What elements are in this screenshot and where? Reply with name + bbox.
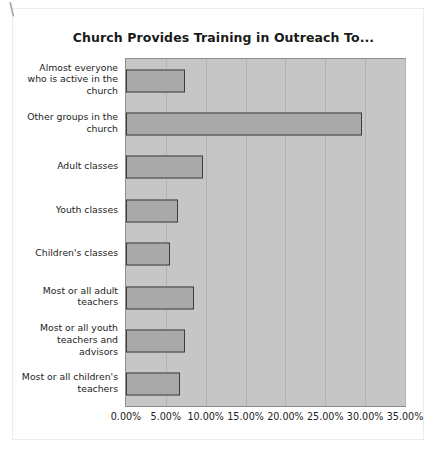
x-tick-label: 5.00% [151, 411, 181, 422]
category-label-line: church [18, 123, 118, 135]
bar[interactable] [126, 329, 185, 352]
bar-row [126, 59, 405, 102]
category-label: Most or all youthteachers andadvisors [18, 322, 118, 357]
x-tick-label: 0.00% [111, 411, 141, 422]
category-label: Most or all children'steachers [18, 372, 118, 396]
category-label-line: church [18, 86, 118, 98]
bar-row [126, 276, 405, 319]
category-axis-labels: Almost everyonewho is active in thechurc… [18, 58, 118, 407]
bar-row [126, 233, 405, 276]
category-label: Children's classes [18, 247, 118, 259]
category-label-line: Most or all adult [18, 285, 118, 297]
category-label: Almost everyonewho is active in thechurc… [18, 62, 118, 97]
category-label-line: Youth classes [18, 204, 118, 216]
corner-scan-mark: \ [8, 0, 24, 20]
x-tick-label: 15.00% [227, 411, 264, 422]
plot-area [125, 58, 406, 407]
bar[interactable] [126, 199, 178, 222]
category-label-line: advisors [18, 346, 118, 358]
bar[interactable] [126, 113, 362, 136]
category-label-line: teachers and [18, 334, 118, 346]
category-label: Adult classes [18, 161, 118, 173]
bar[interactable] [126, 286, 194, 309]
category-label-line: Children's classes [18, 247, 118, 259]
category-label-line: Almost everyone [18, 62, 118, 74]
category-label-line: Most or all children's [18, 372, 118, 384]
bar[interactable] [126, 243, 170, 266]
bar-row [126, 146, 405, 189]
category-label: Most or all adultteachers [18, 285, 118, 309]
x-tick-label: 20.00% [267, 411, 304, 422]
bar[interactable] [126, 373, 180, 396]
x-tick-label: 35.00% [387, 411, 424, 422]
category-label-line: Other groups in the [18, 111, 118, 123]
bar-row [126, 189, 405, 232]
category-label-line: who is active in the [18, 74, 118, 86]
chart-title: Church Provides Training in Outreach To.… [0, 30, 447, 45]
category-label-line: teachers [18, 297, 118, 309]
bar[interactable] [126, 69, 185, 92]
category-label-line: Adult classes [18, 161, 118, 173]
category-label-line: teachers [18, 383, 118, 395]
category-label-line: Most or all youth [18, 322, 118, 334]
x-tick-label: 30.00% [347, 411, 384, 422]
bar-row [126, 363, 405, 406]
x-tick-label: 25.00% [307, 411, 344, 422]
category-label: Youth classes [18, 204, 118, 216]
category-label: Other groups in thechurch [18, 111, 118, 135]
gridline [405, 59, 406, 406]
x-tick-label: 10.00% [187, 411, 224, 422]
bar-row [126, 102, 405, 145]
bar-row [126, 319, 405, 362]
bar[interactable] [126, 156, 203, 179]
x-axis-tick-labels: 0.00%5.00%10.00%15.00%20.00%25.00%30.00%… [0, 411, 447, 427]
